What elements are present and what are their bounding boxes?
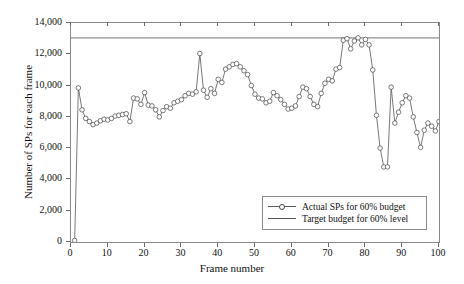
data-point-marker bbox=[179, 97, 184, 102]
data-point-marker bbox=[389, 85, 394, 90]
y-tick-mark bbox=[66, 85, 70, 86]
data-point-marker bbox=[205, 95, 210, 100]
data-point-marker bbox=[128, 119, 133, 124]
data-point-marker bbox=[76, 86, 81, 91]
data-point-marker bbox=[315, 104, 320, 109]
data-point-marker bbox=[150, 104, 155, 109]
data-point-marker bbox=[168, 106, 173, 111]
x-tick-label: 10 bbox=[87, 247, 127, 258]
x-tick-label: 80 bbox=[344, 247, 384, 258]
y-tick-mark bbox=[66, 241, 70, 242]
chart-figure: Number of SPs for each frame Frame numbe… bbox=[0, 0, 464, 284]
data-point-marker bbox=[337, 65, 342, 70]
x-tick-mark bbox=[254, 243, 255, 247]
legend-label-actual: Actual SPs for 60% budget bbox=[302, 202, 405, 212]
x-tick-mark bbox=[438, 243, 439, 247]
data-point-marker bbox=[370, 68, 375, 73]
y-tick-mark bbox=[66, 178, 70, 179]
data-point-marker bbox=[198, 51, 203, 56]
x-tick-label: 0 bbox=[50, 247, 90, 258]
data-point-marker bbox=[282, 102, 287, 107]
y-tick-mark bbox=[66, 147, 70, 148]
legend-label-target: Target budget for 60% level bbox=[302, 214, 408, 224]
data-point-marker bbox=[278, 97, 283, 102]
x-tick-mark-top bbox=[107, 22, 108, 26]
data-point-marker bbox=[433, 129, 438, 134]
x-tick-mark bbox=[144, 243, 145, 247]
x-tick-mark bbox=[217, 243, 218, 247]
y-tick-mark bbox=[66, 116, 70, 117]
data-point-marker bbox=[161, 108, 166, 113]
data-point-marker bbox=[400, 100, 405, 105]
data-point-marker bbox=[330, 79, 335, 84]
data-point-marker bbox=[139, 102, 144, 107]
legend-marker-line-icon bbox=[268, 201, 296, 213]
data-point-marker bbox=[429, 124, 434, 129]
x-tick-mark-top bbox=[291, 22, 292, 26]
data-point-marker bbox=[304, 86, 309, 91]
x-tick-mark-top bbox=[217, 22, 218, 26]
legend-item-actual: Actual SPs for 60% budget bbox=[268, 201, 421, 213]
data-point-marker bbox=[319, 91, 324, 96]
x-tick-label: 70 bbox=[308, 247, 348, 258]
data-point-marker bbox=[275, 93, 280, 98]
data-point-marker bbox=[153, 108, 158, 113]
x-tick-mark-top bbox=[144, 22, 145, 26]
y-tick-label: 12,000 bbox=[10, 47, 62, 58]
data-point-marker bbox=[422, 128, 427, 133]
x-tick-label: 100 bbox=[418, 247, 458, 258]
data-point-marker bbox=[407, 96, 412, 101]
x-tick-mark bbox=[401, 243, 402, 247]
data-point-marker bbox=[378, 146, 383, 151]
x-tick-mark bbox=[291, 243, 292, 247]
y-tick-label: 10,000 bbox=[10, 79, 62, 90]
x-tick-mark-top bbox=[364, 22, 365, 26]
legend-item-target: Target budget for 60% level bbox=[268, 213, 421, 225]
x-tick-mark bbox=[180, 243, 181, 247]
data-point-marker bbox=[367, 43, 372, 48]
data-point-marker bbox=[411, 115, 416, 120]
data-point-marker bbox=[194, 90, 199, 95]
data-point-marker bbox=[437, 119, 439, 124]
data-point-marker bbox=[72, 238, 77, 242]
x-tick-mark-top bbox=[70, 22, 71, 26]
x-tick-mark bbox=[70, 243, 71, 247]
data-point-marker bbox=[242, 68, 247, 73]
data-point-marker bbox=[393, 121, 398, 126]
x-tick-mark-top bbox=[328, 22, 329, 26]
data-point-marker bbox=[135, 97, 140, 102]
x-tick-mark-top bbox=[438, 22, 439, 26]
x-tick-mark-top bbox=[254, 22, 255, 26]
data-point-marker bbox=[374, 113, 379, 118]
y-tick-mark bbox=[66, 53, 70, 54]
x-axis-title: Frame number bbox=[0, 262, 464, 274]
y-tick-label: 4,000 bbox=[10, 172, 62, 183]
legend-line-icon bbox=[268, 213, 296, 225]
data-point-marker bbox=[293, 104, 298, 109]
data-point-marker bbox=[359, 43, 364, 48]
x-tick-mark-top bbox=[180, 22, 181, 26]
x-tick-label: 60 bbox=[271, 247, 311, 258]
data-point-marker bbox=[323, 81, 328, 86]
data-point-marker bbox=[124, 111, 129, 116]
data-point-marker bbox=[356, 36, 361, 41]
data-point-marker bbox=[220, 80, 225, 85]
data-point-marker bbox=[142, 90, 147, 95]
chart-legend: Actual SPs for 60% budget Target budget … bbox=[262, 196, 427, 230]
y-tick-label: 2,000 bbox=[10, 204, 62, 215]
data-point-marker bbox=[80, 108, 85, 113]
data-point-marker bbox=[260, 97, 265, 102]
data-point-marker bbox=[415, 130, 420, 135]
data-point-marker bbox=[209, 86, 214, 91]
data-point-marker bbox=[245, 72, 250, 77]
x-tick-label: 40 bbox=[197, 247, 237, 258]
data-point-marker bbox=[201, 88, 206, 93]
data-point-marker bbox=[418, 145, 423, 150]
x-tick-mark-top bbox=[401, 22, 402, 26]
data-point-marker bbox=[157, 115, 162, 120]
y-tick-label: 6,000 bbox=[10, 141, 62, 152]
data-point-marker bbox=[385, 165, 390, 170]
data-point-marker bbox=[297, 94, 302, 99]
data-point-marker bbox=[253, 92, 258, 97]
x-tick-label: 50 bbox=[234, 247, 274, 258]
